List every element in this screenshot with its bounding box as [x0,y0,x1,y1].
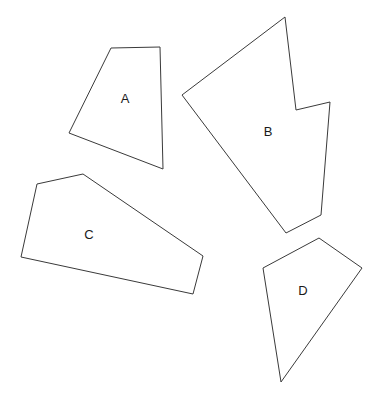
shape-label-b: B [264,124,273,139]
shape-label-a: A [121,91,130,106]
shape-label-d: D [298,283,307,298]
polygon-shape-d[interactable] [263,238,362,382]
polygon-figure: A B C D [0,0,379,402]
figure-canvas: A B C D [0,0,379,402]
polygon-shape-b[interactable] [182,17,330,233]
polygon-shape-a[interactable] [69,47,163,169]
polygon-shape-c[interactable] [21,174,203,294]
shape-label-c: C [84,227,93,242]
